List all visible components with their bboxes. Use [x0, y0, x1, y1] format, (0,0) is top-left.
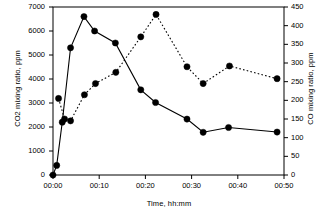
data-point: [61, 116, 67, 122]
data-point: [92, 80, 98, 86]
data-point: [138, 34, 144, 40]
data-point: [55, 95, 61, 101]
data-point: [200, 129, 206, 135]
data-point: [67, 45, 73, 51]
data-point: [274, 76, 280, 82]
data-point: [81, 92, 87, 98]
data-point: [152, 99, 158, 105]
data-point: [184, 64, 190, 70]
data-point: [67, 118, 73, 124]
plot-area: [0, 0, 326, 213]
chart-figure: CO2 mixing ratio, ppm CO mixing ratio, p…: [0, 0, 326, 213]
data-point: [200, 80, 206, 86]
data-point: [91, 28, 97, 34]
data-point: [184, 116, 190, 122]
data-point: [138, 87, 144, 93]
data-point: [112, 40, 118, 46]
data-point: [153, 11, 159, 17]
data-point: [81, 14, 87, 20]
data-point: [226, 63, 232, 69]
data-point: [54, 162, 60, 168]
data-point: [274, 129, 280, 135]
data-point: [50, 172, 56, 178]
data-point: [225, 124, 231, 130]
data-point: [113, 69, 119, 75]
